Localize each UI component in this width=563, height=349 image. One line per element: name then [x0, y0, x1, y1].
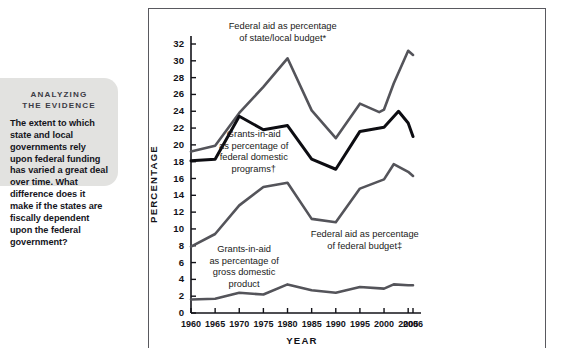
annotation-gdp: product — [229, 279, 260, 289]
y-axis-title: PERCENTAGE — [149, 145, 159, 223]
annotation-federal-domestic: programs† — [232, 164, 276, 174]
chart-panel: 0246810121416182022242628303219601965197… — [148, 8, 546, 348]
y-tick-label: 6 — [179, 257, 184, 268]
x-tick-label: 1970 — [229, 319, 249, 329]
x-tick-label: 1975 — [253, 319, 273, 329]
y-tick-label: 10 — [173, 223, 184, 234]
x-tick-label: 1960 — [181, 319, 201, 329]
x-tick-label: 1965 — [205, 319, 225, 329]
annotation-federal-domestic: Grants-in-aid — [227, 129, 281, 139]
y-tick-label: 16 — [173, 173, 184, 184]
analyzing-the-evidence-callout: ANALYZING THE EVIDENCE The extent to whi… — [0, 78, 118, 186]
x-tick-label: 2000 — [374, 319, 394, 329]
callout-kicker-line2: THE EVIDENCE — [10, 100, 108, 111]
y-tick-label: 0 — [179, 307, 184, 318]
chart-plot-area: 0246810121416182022242628303219601965197… — [149, 9, 547, 349]
x-tick-label: 1985 — [302, 319, 322, 329]
annotation-federal-budget: Federal aid as percentage — [311, 229, 419, 239]
callout-kicker-line1: ANALYZING — [10, 89, 108, 100]
series-line-0 — [191, 51, 413, 152]
x-tick-label: 1980 — [278, 319, 298, 329]
y-tick-label: 20 — [173, 139, 184, 150]
x-axis-title: YEAR — [286, 335, 317, 346]
annotation-gdp: Grants-in-aid — [217, 244, 271, 254]
annotation-state-local: of state/local budget* — [239, 33, 326, 43]
y-tick-label: 8 — [179, 240, 185, 251]
callout-body-text: The extent to which state and local gove… — [10, 118, 108, 249]
line-chart-svg: 0246810121416182022242628303219601965197… — [149, 9, 547, 349]
y-tick-label: 4 — [179, 273, 185, 284]
y-tick-label: 12 — [173, 206, 184, 217]
x-tick-label: 1990 — [326, 319, 346, 329]
annotation-state-local: Federal aid as percentage — [229, 21, 337, 31]
annotation-federal-domestic: as percentage of — [219, 141, 289, 151]
y-tick-label: 24 — [173, 105, 184, 116]
y-tick-label: 2 — [179, 290, 184, 301]
y-tick-label: 22 — [173, 122, 184, 133]
y-tick-label: 28 — [173, 72, 184, 83]
y-tick-label: 26 — [173, 88, 184, 99]
x-tick-label: 2006 — [403, 319, 423, 329]
x-tick-label: 1995 — [350, 319, 370, 329]
y-tick-label: 32 — [173, 38, 184, 49]
series-line-3 — [191, 284, 413, 299]
annotation-gdp: gross domestic — [213, 267, 276, 277]
annotation-gdp: as percentage of — [209, 256, 279, 266]
annotation-federal-budget: of federal budget‡ — [327, 241, 402, 251]
y-tick-label: 30 — [173, 55, 184, 66]
y-tick-label: 18 — [173, 156, 184, 167]
y-tick-label: 14 — [173, 189, 184, 200]
annotation-federal-domestic: federal domestic — [220, 152, 289, 162]
callout-kicker: ANALYZING THE EVIDENCE — [10, 89, 108, 112]
